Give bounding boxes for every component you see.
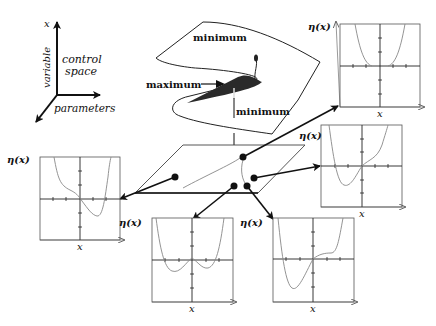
control-plane	[135, 145, 305, 193]
variable-name-label: variable	[41, 47, 52, 88]
graph-left: η(x) x	[7, 154, 124, 252]
top-minimum-label: minimum	[193, 32, 247, 43]
bottom-minimum-label: minimum	[236, 106, 290, 117]
graph-bottom-right: η(x) x	[240, 217, 357, 314]
graph-right-middle: η(x) x	[299, 125, 405, 219]
graph-bottom-left-ylabel: η(x)	[119, 217, 142, 228]
folded-surface: minimum maximum minimum	[146, 22, 320, 134]
axes-legend: x variable control space parameters	[36, 18, 116, 122]
graph-right-middle-ylabel: η(x)	[299, 130, 322, 141]
graph-top-right-ylabel: η(x)	[308, 21, 331, 32]
graph-bottom-left-xlabel: x	[189, 303, 195, 314]
graph-top-right-xlabel: x	[377, 108, 383, 119]
parameters-label: parameters	[54, 102, 116, 114]
graph-bottom-right-ylabel: η(x)	[240, 217, 263, 228]
variable-axis-label: x	[44, 18, 50, 29]
control-space-label-2: space	[65, 65, 97, 78]
graph-bottom-left: η(x) x	[119, 217, 236, 314]
graph-top-right: η(x) x	[308, 21, 424, 119]
cusp-catastrophe-diagram: x variable control space parameters mini…	[0, 0, 436, 326]
maximum-label: maximum	[146, 79, 202, 90]
graph-left-ylabel: η(x)	[7, 154, 30, 165]
graph-right-middle-xlabel: x	[359, 208, 365, 219]
graph-bottom-right-xlabel: x	[310, 303, 316, 314]
graph-left-xlabel: x	[77, 241, 83, 252]
